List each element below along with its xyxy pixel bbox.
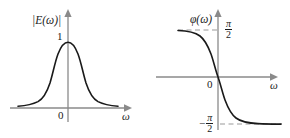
magnitude-y-axis-label: |E(ω)| — [32, 15, 61, 27]
phase-lower-asymptote-sign: − — [199, 118, 205, 129]
phase-plot-svg — [148, 0, 290, 138]
magnitude-origin-label: 0 — [58, 110, 64, 121]
phase-x-axis-label: ω — [270, 80, 278, 91]
phase-lower-asymptote-label: − π 2 — [199, 113, 213, 134]
phase-lower-asymptote-fraction: π 2 — [206, 113, 213, 134]
magnitude-x-axis-label: ω — [122, 111, 130, 122]
magnitude-y-axis — [64, 9, 71, 122]
magnitude-plot-panel: |E(ω)| 1 0 ω — [0, 0, 148, 138]
phase-y-axis-label: φ(ω) — [190, 14, 212, 26]
figure-container: |E(ω)| 1 0 ω φ(ω) — [0, 0, 290, 138]
phase-plot-panel: φ(ω) π 2 0 ω − π 2 — [148, 0, 290, 138]
phase-origin-label: 0 — [207, 79, 213, 90]
phase-upper-asymptote-fraction: π 2 — [225, 19, 232, 40]
phase-lower-asymptote-denominator: 2 — [206, 124, 213, 134]
phase-upper-asymptote-denominator: 2 — [225, 30, 232, 40]
magnitude-peak-label: 1 — [57, 31, 63, 42]
phase-upper-asymptote-label: π 2 — [224, 19, 232, 40]
